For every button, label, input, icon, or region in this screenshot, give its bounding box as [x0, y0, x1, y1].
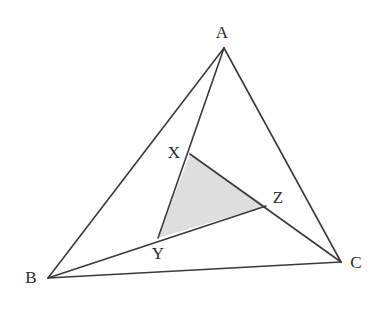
segment-side-bc — [48, 262, 341, 278]
vertex-label-z: Z — [273, 189, 283, 206]
segment-side-ac — [224, 48, 341, 262]
vertex-label-b: B — [25, 269, 36, 286]
vertex-label-y: Y — [152, 245, 164, 262]
geometry-figure: A B C X Y Z — [0, 0, 387, 314]
geometry-canvas — [0, 0, 387, 314]
vertex-label-a: A — [216, 24, 228, 41]
vertex-label-x: X — [168, 144, 180, 161]
vertex-label-c: C — [350, 254, 361, 271]
